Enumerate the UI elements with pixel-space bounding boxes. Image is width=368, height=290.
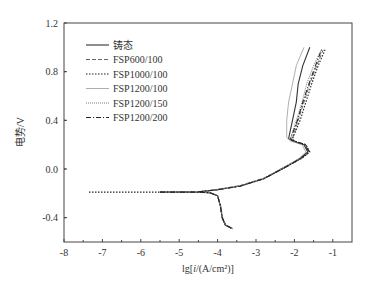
x-axis-title: lg[i/(A/cm²)] (182, 263, 234, 275)
x-axis-title-prefix: lg[ (182, 263, 193, 274)
x-tick-label: -3 (252, 247, 260, 258)
legend-label: FSP1200/150 (113, 98, 167, 109)
series-line-cathodic (89, 192, 232, 229)
legend-label: 铸态 (113, 39, 133, 51)
x-axis-title-suffix: /(A/cm²)] (196, 263, 234, 275)
y-tick-label: 0.4 (46, 115, 59, 126)
series-line-anodic (198, 50, 323, 192)
series-line-cathodic (160, 192, 233, 229)
series-line-anodic (198, 50, 325, 192)
x-tick-label: -1 (329, 247, 337, 258)
series-line-anodic (198, 50, 321, 192)
legend: 铸态FSP600/100FSP1000/100FSP1200/100FSP120… (86, 39, 167, 124)
x-tick-label: -5 (175, 247, 183, 258)
series-line-anodic (198, 47, 306, 192)
series-line-cathodic (160, 192, 232, 229)
x-tick-label: -6 (137, 247, 145, 258)
plot-frame (64, 23, 352, 242)
series-line-anodic (198, 49, 322, 192)
y-tick-label: 1.2 (46, 18, 59, 29)
legend-label: FSP1000/100 (113, 69, 167, 80)
x-tick-label: -4 (213, 247, 221, 258)
x-tick-label: -7 (98, 247, 106, 258)
legend-label: FSP1200/100 (113, 83, 167, 94)
y-tick-label: 0.0 (46, 164, 59, 175)
series-line-anodic (198, 47, 309, 192)
legend-label: FSP600/100 (113, 54, 162, 65)
x-tick-label: -8 (60, 247, 68, 258)
y-axis-ticks: 1.20.80.40.0-0.4 (42, 18, 67, 224)
y-tick-label: -0.4 (42, 212, 58, 223)
y-tick-label: 0.8 (46, 66, 59, 77)
y-axis-title: 电势/V (14, 116, 26, 147)
polarization-chart: -8-7-6-5-4-3-2-1 1.20.80.40.0-0.4 铸态FSP6… (0, 0, 368, 290)
legend-label: FSP1200/200 (113, 112, 167, 123)
x-tick-label: -2 (290, 247, 298, 258)
